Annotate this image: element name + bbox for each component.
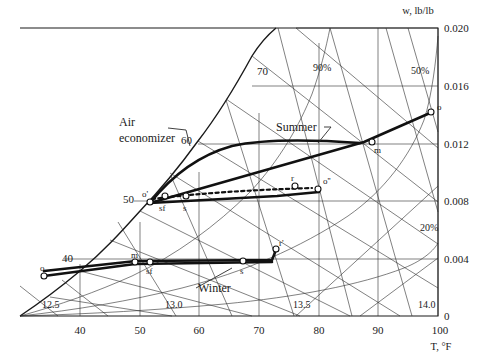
- label-summer-s: s: [183, 203, 187, 213]
- wet-bulb-labels: 40 50 60 70: [62, 65, 269, 264]
- chart-canvas: o' sf s o'' r m o o m sf s r' 40 50 60 7…: [0, 0, 504, 357]
- label-wb-60: 60: [181, 134, 193, 146]
- summer-lower-line: [150, 192, 319, 203]
- label-summer-r: r: [291, 173, 294, 183]
- x-tick-100: 100: [432, 324, 449, 336]
- marker-winter-sf[interactable]: [147, 259, 153, 265]
- label-rh-90: 90%: [313, 62, 331, 73]
- specific-volume-labels: 12.5 13.0 13.5 14.0: [42, 299, 436, 310]
- label-wb-50: 50: [123, 193, 135, 205]
- label-sv-125: 12.5: [42, 299, 60, 310]
- label-air-economizer-line1: Air: [119, 115, 135, 129]
- label-winter-s: s: [240, 266, 244, 276]
- relative-humidity-curves: [20, 28, 438, 316]
- winter-lower-line: [44, 262, 272, 276]
- y-tick-0016: 0.016: [444, 80, 469, 92]
- marker-summer-o-dblprime[interactable]: [315, 186, 321, 192]
- label-summer-o-prime: o': [142, 189, 149, 199]
- x-tick-60: 60: [194, 324, 206, 336]
- x-axis-title: T, °F: [431, 341, 452, 352]
- frame-border: [20, 28, 438, 316]
- x-tick-50: 50: [135, 324, 147, 336]
- marker-summer-s[interactable]: [183, 193, 189, 199]
- annotation-winter: Winter: [196, 268, 232, 295]
- marker-winter-o[interactable]: [41, 273, 47, 279]
- specific-volume-lines: [20, 28, 438, 316]
- plot-frame: [20, 28, 438, 316]
- label-summer-o-dblprime: o'': [323, 176, 331, 186]
- y-tick-0020: 0.020: [444, 22, 469, 34]
- label-summer-m: m: [374, 145, 381, 155]
- sv-line-130: [171, 176, 232, 316]
- marker-summer-sf[interactable]: [162, 193, 168, 199]
- label-winter-r-prime: r': [279, 238, 284, 248]
- y-axis-title: w, lb/lb: [402, 5, 433, 16]
- label-sv-140: 14.0: [418, 299, 436, 310]
- x-tick-80: 80: [314, 324, 326, 336]
- label-summer-sf: sf: [159, 203, 166, 213]
- label-winter-o: o: [40, 263, 45, 273]
- y-axis: w, lb/lb 0.020 0.016 0.012 0.008 0.004 0: [402, 5, 469, 322]
- psychrometric-chart-figure: o' sf s o'' r m o o m sf s r' 40 50 60 7…: [0, 0, 504, 357]
- y-tick-0008: 0.008: [444, 195, 469, 207]
- winter-point-labels: o m sf s r': [40, 238, 284, 276]
- label-air-economizer-line2: economizer: [119, 131, 175, 145]
- sv-cross-1: [296, 186, 438, 316]
- x-tick-90: 90: [373, 324, 385, 336]
- label-winter: Winter: [198, 281, 231, 295]
- label-rh-50: 50%: [411, 65, 429, 76]
- label-summer-o: o: [437, 102, 442, 112]
- marker-summer-r[interactable]: [292, 183, 298, 189]
- x-axis: 40 50 60 70 80 90 100 T, °F: [75, 324, 452, 352]
- label-rh-20: 20%: [420, 222, 438, 233]
- wb-line-extra-3: [110, 240, 300, 316]
- label-wb-70: 70: [257, 65, 269, 77]
- sv-line-125: [62, 280, 108, 316]
- annotation-air-economizer: Air economizer: [119, 115, 190, 146]
- marker-summer-o[interactable]: [428, 109, 434, 115]
- label-winter-m: m: [131, 250, 138, 260]
- wb-line-extra-1: [296, 28, 438, 148]
- y-tick-0012: 0.012: [444, 138, 469, 150]
- label-summer: Summer: [276, 120, 317, 134]
- label-sv-135: 13.5: [293, 299, 311, 310]
- label-sv-130: 13.0: [165, 299, 183, 310]
- rh-curve-50: [20, 36, 438, 316]
- x-tick-40: 40: [75, 324, 87, 336]
- wb-line-60: [198, 141, 438, 288]
- marker-winter-s[interactable]: [240, 258, 246, 264]
- rh-curve-20: [20, 243, 438, 316]
- y-tick-0: 0: [444, 310, 450, 322]
- y-tick-0004: 0.004: [444, 253, 469, 265]
- wb-line-extra-4: [50, 297, 172, 316]
- x-tick-70: 70: [254, 324, 266, 336]
- label-wb-40: 40: [62, 252, 74, 264]
- marker-summer-o-prime[interactable]: [147, 199, 153, 205]
- label-winter-sf: sf: [146, 266, 153, 276]
